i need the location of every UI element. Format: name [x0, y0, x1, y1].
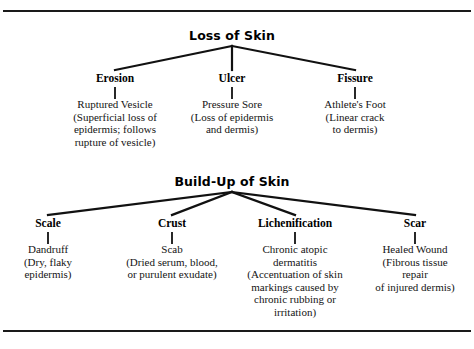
- bottom-divider-rule: [3, 330, 471, 332]
- top-divider-rule: [3, 10, 471, 12]
- tree-title-loss-of-skin: Loss of Skin: [189, 28, 275, 43]
- node-description-crust: Scab (Dried serum, blood, or purulent ex…: [106, 243, 238, 281]
- diagram-canvas: Loss of Skin Erosion Ruptured Vesicle (S…: [0, 0, 474, 349]
- node-crust: Crust Scab (Dried serum, blood, or purul…: [106, 217, 238, 281]
- node-description-scale: Dandruff (Dry, flaky epidermis): [0, 243, 107, 281]
- tree-title-build-up-of-skin: Build-Up of Skin: [174, 174, 289, 189]
- node-label-scar: Scar: [356, 217, 474, 230]
- node-description-scar: Healed Wound (Fibrous tissue repair of i…: [356, 243, 474, 293]
- node-scar: Scar Healed Wound (Fibrous tissue repair…: [356, 217, 474, 293]
- node-description-fissure: Athlete's Foot (Linear crack to dermis): [280, 98, 430, 136]
- node-label-scale: Scale: [0, 217, 107, 230]
- node-label-lichenification: Lichenification: [229, 217, 361, 230]
- node-label-crust: Crust: [106, 217, 238, 230]
- node-label-fissure: Fissure: [280, 72, 430, 85]
- node-description-lichenification: Chronic atopic dermatitis (Accentuation …: [229, 243, 361, 319]
- node-fissure: Fissure Athlete's Foot (Linear crack to …: [280, 72, 430, 136]
- node-lichenification: Lichenification Chronic atopic dermatiti…: [229, 217, 361, 319]
- node-scale: Scale Dandruff (Dry, flaky epidermis): [0, 217, 107, 281]
